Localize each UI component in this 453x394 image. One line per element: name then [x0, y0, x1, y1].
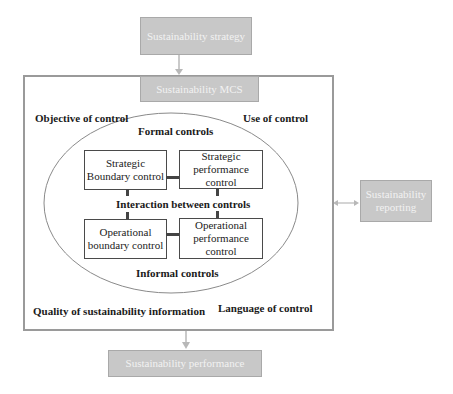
arrow-head-down-icon [182, 342, 190, 349]
operational-boundary-control-box: Operational boundary control [84, 219, 167, 259]
strategic-boundary-control-box: Strategic Boundary control [84, 150, 167, 190]
operational-performance-control-box: Operational performance control [179, 218, 263, 259]
strategic-performance-control-label: Strategic performance control [180, 150, 262, 190]
operational-boundary-control-label: Operational boundary control [85, 226, 166, 252]
sustainability-reporting-box: Sustainability reporting [360, 180, 432, 222]
strategic-link-connector [166, 176, 179, 179]
sustainability-reporting-label: Sustainability reporting [361, 188, 431, 213]
boundary-vertical-connector-top [126, 189, 129, 196]
strategic-boundary-control-label: Strategic Boundary control [85, 157, 166, 183]
performance-vertical-connector-top [216, 188, 219, 196]
interaction-between-controls-label: Interaction between controls [116, 198, 250, 210]
objective-of-control-label: Objective of control [35, 112, 128, 124]
language-of-control-label: Language of control [218, 302, 313, 314]
sustainability-performance-label: Sustainability performance [126, 357, 245, 370]
sustainability-strategy-box: Sustainability strategy [140, 17, 252, 55]
performance-vertical-connector-bottom [216, 211, 219, 218]
use-of-control-label: Use of control [243, 112, 308, 124]
formal-controls-label: Formal controls [138, 125, 213, 137]
informal-controls-label: Informal controls [136, 267, 219, 279]
sustainability-performance-box: Sustainability performance [108, 350, 262, 377]
strategic-performance-control-box: Strategic performance control [179, 150, 263, 189]
arrow-head-right-icon [354, 200, 359, 206]
quality-of-sustainability-information-label: Quality of sustainability information [33, 305, 205, 317]
sustainability-mcs-label: Sustainability MCS [156, 83, 243, 96]
sustainability-strategy-label: Sustainability strategy [147, 30, 245, 43]
operational-link-connector [166, 233, 179, 236]
boundary-vertical-connector-bottom [126, 212, 129, 219]
sustainability-mcs-header: Sustainability MCS [140, 76, 259, 102]
operational-performance-control-label: Operational performance control [180, 219, 262, 259]
